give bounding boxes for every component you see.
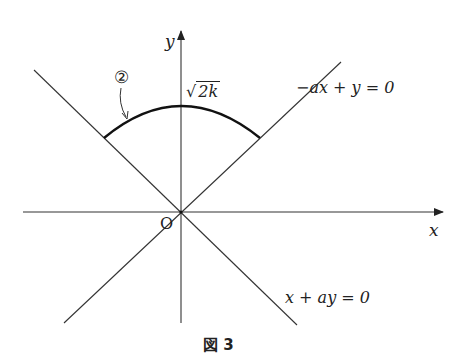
figure-3: y x O ② √2k −ax + y = 0 x + ay = 0 図 3 <box>0 0 459 361</box>
equation-label-line1: −ax + y = 0 <box>296 80 394 96</box>
diagram-canvas <box>0 0 459 361</box>
line-neg-ax-plus-y <box>64 62 341 323</box>
figure-caption: 図 3 <box>203 338 234 353</box>
arc-pointer-arrow <box>120 88 126 117</box>
origin-label: O <box>160 216 173 232</box>
y-axis-label: y <box>165 33 175 50</box>
sqrt-radicand: 2k <box>196 81 220 101</box>
x-axis-label: x <box>429 222 439 239</box>
arc-2 <box>104 106 260 138</box>
origin-dot <box>179 210 182 213</box>
sqrt-symbol: √ <box>186 82 196 101</box>
peak-label-sqrt-2k: √2k <box>186 84 220 100</box>
arc-label-circled-2: ② <box>114 69 129 86</box>
equation-label-line2: x + ay = 0 <box>285 290 370 306</box>
